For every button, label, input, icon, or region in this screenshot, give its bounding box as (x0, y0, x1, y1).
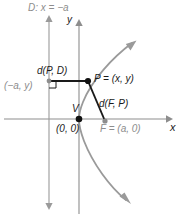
focus-label: F = (a, 0) (100, 124, 141, 134)
vertex-label: V (72, 104, 79, 114)
x-axis (4, 115, 173, 123)
directrix-label: D: x = −a (28, 3, 69, 13)
parabola-figure: D: x = −a y d(P, D) (−a, y) P = (x, y) d… (0, 0, 184, 221)
y-axis-label: y (67, 15, 72, 25)
figure-canvas (0, 0, 184, 221)
x-axis-label: x (170, 122, 176, 133)
foot-point-label: (−a, y) (4, 81, 33, 91)
point-p-label: P = (x, y) (94, 74, 134, 84)
point-p (85, 78, 91, 84)
distance-p-directrix-label: d(P, D) (37, 66, 67, 76)
distance-focus-p-label: d(F, P) (99, 99, 128, 109)
directrix-line (45, 15, 52, 210)
origin-label: (0, 0) (56, 124, 79, 134)
point-foot-of-perpendicular (47, 79, 52, 84)
point-vertex-origin (76, 116, 83, 123)
